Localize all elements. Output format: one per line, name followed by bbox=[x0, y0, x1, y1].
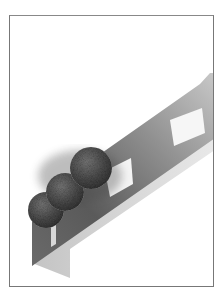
sphere bbox=[70, 147, 112, 189]
picture-frame bbox=[9, 15, 214, 287]
render-scene bbox=[10, 16, 214, 287]
